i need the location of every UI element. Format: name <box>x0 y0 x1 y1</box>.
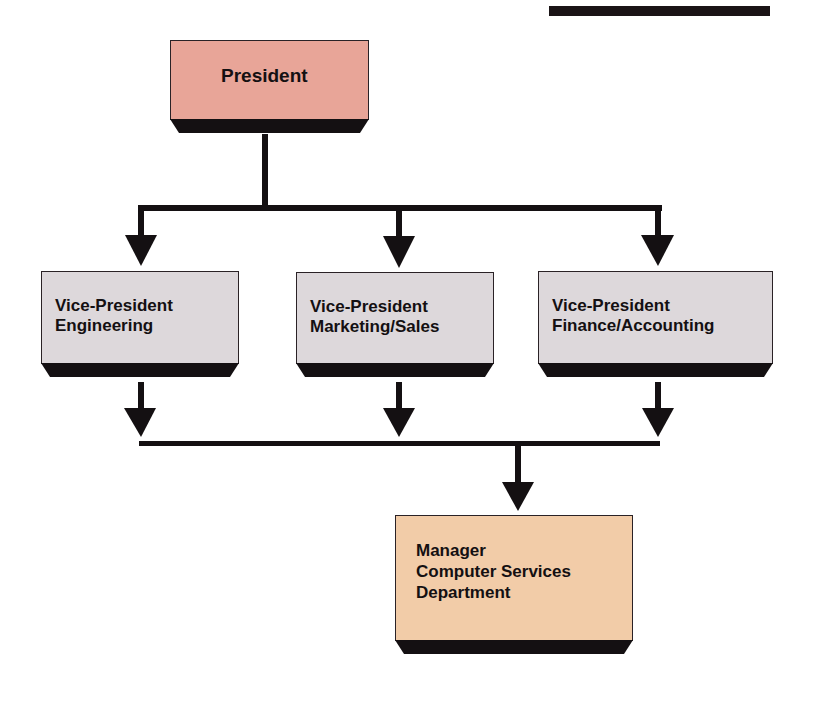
node-president-title: President <box>221 66 308 87</box>
node-vp-marketing-title: Vice-President <box>310 298 428 317</box>
node-vp-marketing-dept: Marketing/Sales <box>310 318 439 337</box>
arrow-down-icon <box>641 235 674 266</box>
node-vp-finance: Vice-President Finance/Accounting <box>538 271 773 364</box>
node-manager-title: Manager <box>416 542 486 561</box>
node-vp-marketing: Vice-President Marketing/Sales <box>296 272 494 364</box>
arrow-down-icon <box>124 408 156 437</box>
node-vp-engineering: Vice-President Engineering <box>41 271 239 364</box>
node-vp-finance-shadow <box>538 363 773 378</box>
arrow-down-icon <box>383 408 415 437</box>
node-president-shadow <box>170 119 369 134</box>
node-vp-engineering-title: Vice-President <box>55 297 173 316</box>
arrow-down-icon <box>125 235 157 266</box>
node-manager-shadow <box>395 640 633 655</box>
node-vp-finance-dept: Finance/Accounting <box>552 317 714 336</box>
node-manager-computer-services: Manager Computer Services Department <box>395 515 633 641</box>
node-vp-finance-title: Vice-President <box>552 297 670 316</box>
node-manager-dept: Computer Services <box>416 563 571 582</box>
node-manager-dept-suffix: Department <box>416 584 510 603</box>
arrow-down-icon <box>642 408 674 437</box>
arrow-down-icon <box>383 236 415 268</box>
node-president: President <box>170 40 369 120</box>
node-vp-engineering-shadow <box>41 363 239 378</box>
arrow-down-icon <box>502 482 534 511</box>
node-vp-marketing-shadow <box>296 363 494 378</box>
node-vp-engineering-dept: Engineering <box>55 317 153 336</box>
